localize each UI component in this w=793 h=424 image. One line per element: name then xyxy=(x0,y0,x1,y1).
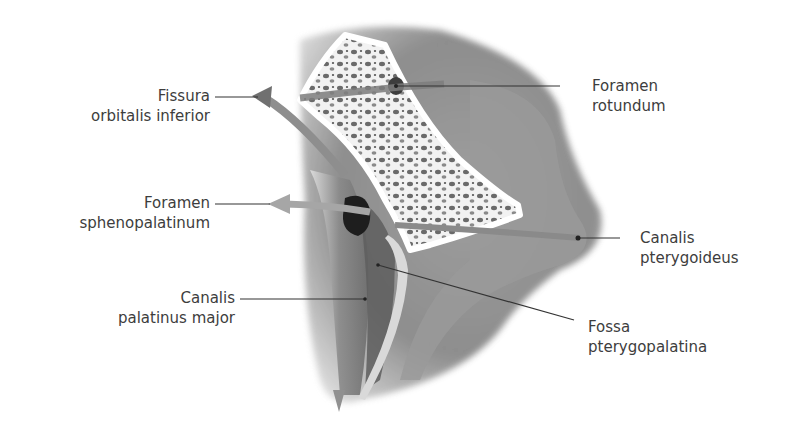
pointer-dot-pterygoideus xyxy=(576,236,581,241)
label-canalis-palatinus-major: Canalis palatinus major xyxy=(85,288,235,328)
label-fossa-pterygopalatina: Fossa pterygopalatina xyxy=(588,317,758,357)
label-fissura-orbitalis-inferior: Fissura orbitalis inferior xyxy=(60,86,210,126)
label-foramen-rotundum: Foramen rotundum xyxy=(592,76,742,116)
label-canalis-pterygoideus: Canalis pterygoideus xyxy=(640,228,790,268)
label-foramen-sphenopalatinum: Foramen sphenopalatinum xyxy=(60,193,210,233)
pointer-dot-fossa xyxy=(376,263,380,267)
pointer-dot-rotundum xyxy=(394,84,398,88)
arrowhead-sphenopalatine-icon xyxy=(268,194,290,214)
pointer-dot-palatinus xyxy=(363,297,367,301)
